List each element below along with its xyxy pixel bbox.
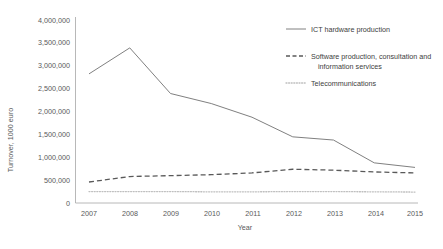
y-axis-tick-labels: 4,000,000 3,500,000 3,000,000 2,500,000 … [38,16,70,208]
y-tick-label: 2,500,000 [38,84,70,93]
y-tick-label: 2,000,000 [38,107,70,116]
x-tick-label: 2013 [327,209,343,218]
x-tick-label: 2012 [286,209,302,218]
legend-label-telecommunications: Telecommunications [311,79,377,88]
line-chart: 4,000,000 3,500,000 3,000,000 2,500,000 … [0,0,443,249]
x-axis-title: Year [238,223,253,232]
legend-label-software-production: Software production, consultation and [311,52,431,61]
x-tick-label: 2008 [122,209,138,218]
x-tick-label: 2009 [163,209,179,218]
y-tick-label: 0 [66,199,70,208]
legend: ICT hardware production Software product… [286,25,431,88]
y-tick-label: 4,000,000 [38,16,70,25]
y-tick-label: 3,500,000 [38,38,70,47]
chart-container: 4,000,000 3,500,000 3,000,000 2,500,000 … [0,0,443,249]
x-tick-label: 2014 [368,209,384,218]
y-tick-label: 3,000,000 [38,61,70,70]
x-tick-label: 2010 [204,209,220,218]
x-tick-label: 2015 [407,209,423,218]
y-tick-label: 500,000 [44,176,70,185]
y-tick-label: 1,500,000 [38,130,70,139]
legend-label-software-production-line2: information services [318,62,382,71]
x-tick-label: 2011 [245,209,260,218]
x-tick-label: 2007 [81,209,97,218]
x-axis-tick-labels: 2007 2008 2009 2010 2011 2012 2013 2014 … [81,209,423,218]
y-axis-title: Turnover, 1000 euro [6,108,15,172]
y-tick-label: 1,000,000 [38,153,70,162]
legend-label-ict-hardware-production: ICT hardware production [311,25,390,34]
series-line-software-production [89,169,415,182]
